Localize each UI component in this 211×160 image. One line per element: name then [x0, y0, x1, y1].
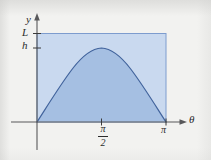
x-tick-label-pi-over-2: π 2 — [96, 124, 110, 148]
math-figure: y L h θ π 2 π — [0, 0, 211, 160]
y-axis-arrowhead — [34, 13, 40, 21]
x-tick-label-pi: π — [161, 125, 166, 135]
fraction-numerator: π — [96, 124, 110, 135]
x-axis-arrowhead — [180, 119, 188, 125]
y-tick-label-L: L — [22, 27, 28, 38]
fraction-denominator: 2 — [96, 138, 110, 149]
y-axis-label: y — [26, 14, 31, 25]
x-axis-label: θ — [189, 114, 194, 125]
y-tick-label-h: h — [22, 40, 28, 51]
